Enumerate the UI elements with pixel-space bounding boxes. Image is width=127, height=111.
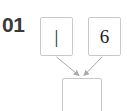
operand-right-value: 6 xyxy=(100,27,110,46)
diagram-canvas: 01 | 6 xyxy=(0,0,127,111)
result-box[interactable] xyxy=(62,78,102,111)
operand-left-value: | xyxy=(55,27,59,46)
step-number-label: 01 xyxy=(2,13,36,37)
operand-box-right[interactable]: 6 xyxy=(88,17,121,56)
operand-box-left[interactable]: | xyxy=(40,17,73,56)
connector-left-to-result xyxy=(57,57,80,76)
connector-right-to-result xyxy=(84,57,102,76)
